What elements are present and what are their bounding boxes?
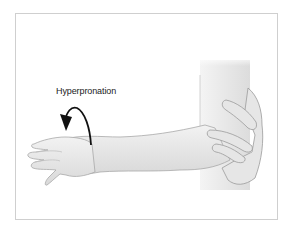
- hyperpronation-label: Hyperpronation: [56, 86, 116, 96]
- patient-hand: [28, 137, 95, 185]
- arm-illustration: [0, 0, 290, 232]
